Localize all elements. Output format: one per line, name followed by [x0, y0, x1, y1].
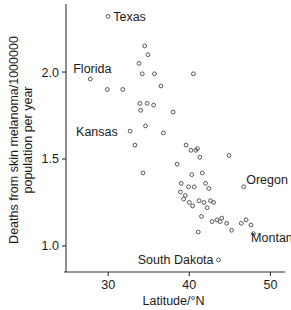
data-point	[138, 101, 142, 105]
data-point	[183, 194, 187, 198]
x-tick-label: 40	[182, 278, 196, 292]
annotation-label: Montana	[251, 231, 291, 245]
data-point	[187, 201, 191, 205]
data-point	[106, 15, 110, 19]
data-point	[161, 131, 165, 135]
annotation-label: South Dakota	[138, 253, 214, 267]
data-point	[144, 124, 148, 128]
x-tick-label: 30	[101, 278, 115, 292]
data-point	[189, 148, 193, 152]
annotation-label: Oregon	[246, 173, 288, 187]
data-point	[88, 77, 92, 81]
data-point	[141, 171, 145, 175]
y-axis-title-line-1: Deaths from skin melanoma/1000000	[7, 36, 21, 244]
data-point	[137, 61, 141, 65]
data-point	[190, 173, 194, 177]
data-point	[207, 187, 211, 191]
data-point	[175, 162, 179, 166]
data-point	[192, 185, 196, 189]
data-point	[225, 221, 229, 225]
data-point	[196, 230, 200, 234]
y-tick-label: 2.0	[42, 66, 59, 80]
data-point	[179, 181, 183, 185]
data-point	[146, 53, 150, 57]
data-point	[204, 181, 208, 185]
y-tick-label: 1.5	[42, 152, 59, 166]
data-point	[200, 214, 204, 218]
data-point	[198, 155, 202, 159]
y-tick-label: 1.0	[42, 239, 59, 253]
data-point	[184, 143, 188, 147]
data-point	[212, 201, 216, 205]
data-point	[210, 220, 214, 224]
melanoma-latitude-scatter-figure: 1.01.52.0304050 TexasFloridaKansasOregon…	[0, 0, 291, 310]
x-tick-label: 50	[263, 278, 277, 292]
data-point	[197, 199, 201, 203]
annotation-label: Texas	[113, 10, 146, 24]
data-point	[242, 185, 246, 189]
data-point	[202, 201, 206, 205]
y-axis-title-line-2: population per year	[21, 86, 35, 193]
point-annotations: TexasFloridaKansasOregonMontanaSouth Dak…	[73, 10, 291, 267]
data-point	[200, 171, 204, 175]
data-point	[220, 216, 224, 220]
annotation-label: Florida	[73, 62, 111, 76]
data-point	[140, 72, 144, 76]
data-point	[159, 84, 163, 88]
data-point	[230, 228, 234, 232]
data-point	[187, 185, 191, 189]
data-point	[249, 223, 253, 227]
data-point	[205, 206, 209, 210]
data-point	[145, 101, 149, 105]
data-point	[139, 108, 143, 112]
data-point	[191, 72, 195, 76]
data-point	[152, 103, 156, 107]
data-point	[239, 221, 243, 225]
data-point	[191, 204, 195, 208]
data-point	[133, 143, 137, 147]
data-point	[179, 190, 183, 194]
data-point	[227, 154, 231, 158]
scatter-plot-canvas: 1.01.52.0304050 TexasFloridaKansasOregon…	[0, 0, 291, 310]
data-point	[143, 44, 147, 48]
data-point	[217, 258, 221, 262]
data-point	[171, 110, 175, 114]
data-point	[121, 88, 125, 92]
data-point	[128, 129, 132, 133]
x-axis-title: Latitude/°N	[143, 294, 205, 308]
data-point	[105, 88, 109, 92]
data-point	[153, 72, 157, 76]
data-point	[244, 218, 248, 222]
annotation-label: Kansas	[76, 125, 118, 139]
